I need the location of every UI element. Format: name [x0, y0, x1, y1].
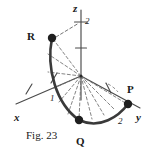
tick-label-x-1: 1: [50, 94, 55, 103]
figure-caption: Fig. 23: [26, 130, 57, 141]
radial-line-4: [59, 76, 81, 102]
radial-line-to-R: [53, 39, 81, 76]
axis-label-x: x: [14, 112, 20, 123]
point-label-P: P: [127, 84, 134, 95]
origin-marker: [80, 75, 83, 78]
axis-label-z: z: [73, 3, 77, 14]
radial-line-5: [68, 76, 81, 114]
tick-label-z-2: 2: [85, 17, 90, 26]
x-tick-outer-mark: [26, 84, 32, 94]
dashed-line-R-to-z-tick: [56, 23, 79, 37]
axis-lines: [16, 10, 140, 108]
radial-line-to-P: [81, 76, 127, 104]
point-Q-dot: [75, 116, 83, 124]
axis-ticks: [26, 22, 111, 94]
figure-drawing: [0, 0, 148, 158]
radial-line-6: [81, 76, 92, 119]
tick-label-y-2: 2: [118, 117, 123, 126]
point-label-Q: Q: [76, 136, 85, 147]
point-R-dot: [48, 34, 56, 42]
point-P-dot: [124, 100, 132, 108]
point-label-R: R: [27, 31, 35, 42]
axis-label-y: y: [136, 112, 141, 123]
radial-fan-dashed-lines: [48, 39, 127, 120]
figure-container: R P Q z y x 2 1 2 Fig. 23: [0, 0, 148, 158]
